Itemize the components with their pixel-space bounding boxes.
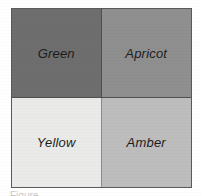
grid-cell-yellow-label: Yellow [37,136,76,149]
caption-text: Figure [10,190,160,196]
color-grid-figure: Green Apricot Yellow Amber [11,8,192,188]
grid-cell-apricot: Apricot [102,9,192,98]
grid-cell-green: Green [12,9,102,98]
grid-cell-amber: Amber [102,98,192,187]
grid-cell-amber-label: Amber [127,136,166,149]
grid-cell-green-label: Green [38,47,75,60]
grid-cell-apricot-label: Apricot [125,47,167,60]
grid-cell-yellow: Yellow [12,98,102,187]
